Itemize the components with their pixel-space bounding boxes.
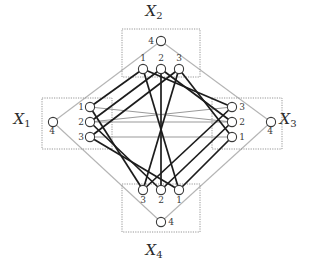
group-label-X3: X3 bbox=[278, 110, 296, 129]
diagram-svg: 4123412343213214 X1X2X3X4 bbox=[0, 0, 321, 264]
node-X4-3[interactable] bbox=[138, 185, 147, 194]
group-label-X1: X1 bbox=[12, 110, 30, 129]
node-X2-2[interactable] bbox=[156, 64, 165, 73]
node-label-X2-3: 3 bbox=[176, 53, 182, 63]
group-label-X2: X2 bbox=[144, 2, 162, 21]
node-label-X1-2: 2 bbox=[78, 117, 84, 127]
node-X3-1[interactable] bbox=[227, 132, 236, 141]
node-label-X3-2: 2 bbox=[239, 117, 245, 127]
node-label-X2-1: 1 bbox=[140, 53, 146, 63]
node-label-X3-3: 3 bbox=[239, 102, 245, 112]
group-label-subscript-X2: 2 bbox=[156, 10, 162, 21]
node-X4-4[interactable] bbox=[156, 217, 165, 226]
dark-edge-layer bbox=[90, 69, 232, 190]
group-label-layer: X1X2X3X4 bbox=[12, 2, 296, 260]
group-label-subscript-X1: 1 bbox=[24, 118, 30, 129]
group-label-X4: X4 bbox=[144, 241, 162, 260]
node-X3-2[interactable] bbox=[227, 117, 236, 126]
figure-canvas: 4123412343213214 X1X2X3X4 bbox=[0, 0, 321, 264]
node-X2-4[interactable] bbox=[156, 36, 165, 45]
node-X1-2[interactable] bbox=[85, 117, 94, 126]
node-label-X2-2: 2 bbox=[158, 53, 164, 63]
node-X4-2[interactable] bbox=[156, 185, 165, 194]
node-X4-1[interactable] bbox=[174, 185, 183, 194]
node-label-X4-2: 2 bbox=[158, 195, 164, 205]
group-label-subscript-X3: 3 bbox=[290, 118, 296, 129]
node-label-X2-4: 4 bbox=[148, 36, 154, 46]
node-label-X1-1: 1 bbox=[78, 102, 84, 112]
node-X2-1[interactable] bbox=[138, 64, 147, 73]
node-label-X1-4: 4 bbox=[49, 126, 55, 136]
node-X1-1[interactable] bbox=[85, 102, 94, 111]
dark-edge-X1-2-X4-2 bbox=[90, 122, 161, 190]
node-X3-3[interactable] bbox=[227, 102, 236, 111]
node-label-X4-4: 4 bbox=[168, 217, 174, 227]
dark-edge-X4-2-X3-2 bbox=[161, 122, 232, 190]
node-label-X4-3: 3 bbox=[140, 195, 146, 205]
node-X2-3[interactable] bbox=[174, 64, 183, 73]
node-label-X1-3: 3 bbox=[78, 132, 84, 142]
node-X1-3[interactable] bbox=[85, 132, 94, 141]
group-label-subscript-X4: 4 bbox=[156, 249, 162, 260]
dark-edge-X4-3-X3-3 bbox=[143, 107, 232, 190]
node-label-X3-1: 1 bbox=[239, 132, 245, 142]
node-label-X4-1: 1 bbox=[176, 195, 182, 205]
node-label-X3-4: 4 bbox=[267, 126, 273, 136]
